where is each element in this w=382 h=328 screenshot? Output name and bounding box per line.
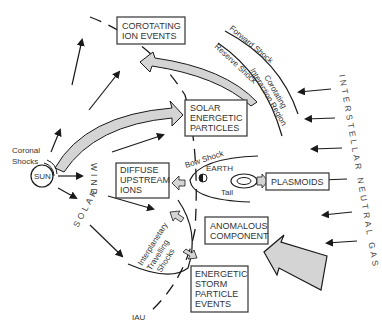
earth-label: EARTH: [206, 164, 233, 173]
box-corotating-ion-events: COROTATING ION EVENTS: [117, 17, 185, 44]
solar-wind-arrow: [112, 135, 163, 152]
svg-text:PLASMOIDS: PLASMOIDS: [271, 177, 324, 187]
box-plasmoids: PLASMOIDS: [266, 173, 329, 190]
iau-label: IAU: [132, 313, 146, 322]
interstellar-arrow: [312, 148, 342, 149]
svg-text:SOLAR: SOLAR: [190, 103, 221, 113]
box-diffuse-upstream-ions: DIFFUSE UPSTREAM IONS: [116, 163, 170, 198]
interstellar-arrow: [323, 212, 352, 215]
svg-text:DIFFUSE: DIFFUSE: [120, 165, 159, 175]
anomalous-flow-arrow: [264, 235, 327, 290]
box-anomalous-component: ANOMALOUS COMPONENT: [205, 217, 269, 244]
coronal-shocks-label-1: Coronal: [12, 146, 40, 155]
solar-wind-label-wind: WIND: [89, 163, 99, 198]
solar-wind-arrow: [90, 225, 122, 256]
svg-text:ION EVENTS: ION EVENTS: [122, 31, 177, 41]
sun-label: SUN: [34, 172, 51, 181]
interstellar-neutral-gas-label: INTERSTELLAR NEUTRAL GAS: [337, 74, 381, 270]
svg-text:UPSTREAM: UPSTREAM: [120, 175, 170, 185]
box-energetic-storm-particle-events: ENERGETIC STORM PARTICLE EVENTS: [191, 266, 248, 312]
plasmoid-icon: [231, 174, 257, 188]
svg-text:ENERGETIC: ENERGETIC: [195, 269, 248, 279]
svg-text:STORM: STORM: [195, 279, 227, 289]
tail-label: Tail: [221, 188, 233, 197]
svg-text:COMPONENT: COMPONENT: [210, 231, 269, 241]
heliosphere-diagram: Forward Shock Reserve Shock Corotating I…: [0, 0, 382, 328]
svg-text:ENERGETIC: ENERGETIC: [190, 113, 243, 123]
interstellar-arrow: [306, 118, 335, 119]
svg-text:COROTATING: COROTATING: [122, 21, 181, 31]
solar-wind-arrow: [89, 72, 119, 110]
svg-text:PARTICLES: PARTICLES: [190, 123, 239, 133]
solar-wind-arrow: [58, 188, 76, 198]
interstellar-arrow: [327, 241, 357, 243]
svg-text:ANOMALOUS: ANOMALOUS: [210, 221, 268, 231]
solar-wind-arrow: [51, 130, 60, 152]
svg-text:PARTICLE: PARTICLE: [195, 289, 238, 299]
ips-arrow-up: [170, 211, 184, 222]
sep-flow-arrow: [55, 101, 183, 172]
svg-text:EVENTS: EVENTS: [195, 299, 231, 309]
coronal-shocks-label-2: Shocks: [12, 157, 38, 166]
diffuse-arrow: [172, 176, 185, 190]
svg-text:IONS: IONS: [120, 185, 142, 195]
box-solar-energetic-particles: SOLAR ENERGETIC PARTICLES: [185, 100, 247, 136]
solar-wind-arrow: [72, 40, 82, 85]
interstellar-arrow: [299, 89, 331, 92]
